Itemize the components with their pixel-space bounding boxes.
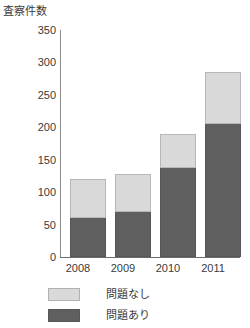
y-tick-300: 300 (22, 57, 56, 68)
legend-label-problem: 問題あり (106, 309, 150, 322)
bar-2008-segment-no-problem (70, 179, 106, 218)
bar-2011-segment-problem (205, 124, 241, 257)
bar-2008[interactable] (70, 179, 106, 257)
bar-2011-segment-no-problem (205, 72, 241, 124)
bar-2009-segment-problem (115, 212, 151, 257)
legend-item-problem[interactable]: 問題あり (48, 307, 238, 324)
y-axis-title: 査察件数 (3, 2, 47, 18)
y-tick-200: 200 (22, 122, 56, 133)
legend-label-no-problem: 問題なし (106, 288, 150, 301)
legend-swatch-dark-gray (48, 309, 80, 322)
x-tick-2011: 2011 (183, 262, 243, 274)
bar-2009-segment-no-problem (115, 174, 151, 212)
y-tick-50: 50 (22, 220, 56, 231)
y-tick-150: 150 (22, 155, 56, 166)
y-tick-100: 100 (22, 187, 56, 198)
bar-2011[interactable] (205, 72, 241, 257)
bar-2010-segment-no-problem (160, 134, 196, 168)
bar-2010[interactable] (160, 134, 196, 257)
stacked-bar-chart: 査察件数 350 300 250 200 150 100 50 0 (0, 0, 250, 328)
legend-item-no-problem[interactable]: 問題なし (48, 286, 238, 303)
legend-swatch-light-gray (48, 288, 80, 301)
bar-2008-segment-problem (70, 218, 106, 257)
chart-legend: 問題なし 問題あり (48, 286, 238, 328)
bar-2009[interactable] (115, 174, 151, 257)
x-axis-line (60, 257, 240, 258)
y-axis-tick-labels: 350 300 250 200 150 100 50 0 (18, 30, 56, 257)
plot-area (60, 30, 240, 257)
y-axis-line (60, 30, 61, 257)
y-tick-350: 350 (22, 25, 56, 36)
bar-2010-segment-problem (160, 168, 196, 257)
y-tick-250: 250 (22, 90, 56, 101)
